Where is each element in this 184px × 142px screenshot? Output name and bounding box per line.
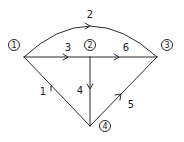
edge-6-label: 6 — [123, 42, 129, 53]
node-4-label: 4 — [102, 122, 107, 131]
edge-1-label: 1 — [40, 86, 46, 97]
node-3-label: 3 — [164, 41, 169, 50]
edge-5-line — [90, 57, 157, 126]
edge-4-label: 4 — [77, 85, 83, 96]
node-2-label: 2 — [87, 41, 92, 50]
network-diagram: 1 2 3 4 1 2 3 4 5 6 — [0, 0, 184, 142]
edge-2-label: 2 — [87, 9, 93, 20]
edge-3-label: 3 — [65, 42, 71, 53]
edge-5-label: 5 — [128, 99, 134, 110]
node-1-label: 1 — [11, 41, 16, 50]
